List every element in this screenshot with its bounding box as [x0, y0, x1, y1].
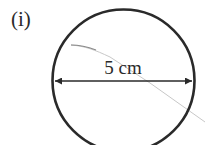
circle-diagram: 5 cm: [0, 0, 207, 145]
diameter-label: 5 cm: [104, 57, 142, 78]
